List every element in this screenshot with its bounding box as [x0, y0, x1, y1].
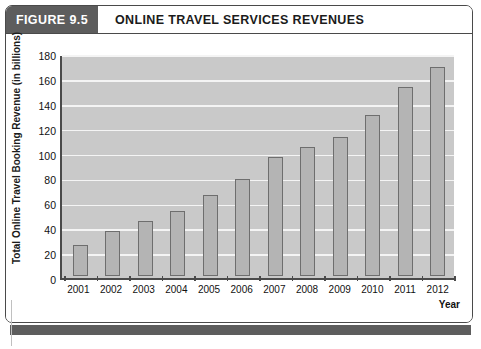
bar-slot	[292, 56, 325, 276]
bar-2011	[398, 87, 413, 276]
bar-2009	[333, 137, 348, 276]
bar-slot	[64, 56, 97, 276]
bar-slot	[227, 56, 260, 276]
y-tick-label: 20	[8, 250, 56, 261]
y-tick-label: 160	[8, 75, 56, 86]
x-tick-label: 2002	[95, 284, 128, 295]
bar-slot	[162, 56, 195, 276]
figure-frame: FIGURE 9.5 ONLINE TRAVEL SERVICES REVENU…	[5, 5, 473, 323]
figure-number-tag: FIGURE 9.5	[6, 6, 98, 33]
x-tick-mark	[64, 276, 66, 281]
bar-2005	[203, 195, 218, 276]
bar-slot	[194, 56, 227, 276]
x-tick-mark	[259, 276, 261, 281]
bar-2001	[73, 245, 88, 276]
x-tick-label: 2001	[62, 284, 95, 295]
x-tick-label: 2012	[421, 284, 454, 295]
x-tick-mark	[389, 276, 391, 281]
bar-2002	[105, 231, 120, 276]
bar-slot	[97, 56, 130, 276]
x-tick-mark	[292, 276, 294, 281]
bar-2008	[300, 147, 315, 276]
x-tick-mark	[129, 276, 131, 281]
plot-canvas	[60, 56, 454, 280]
x-axis-title: Year	[439, 299, 460, 310]
y-tick-label: 140	[8, 100, 56, 111]
y-tick-label: 120	[8, 125, 56, 136]
x-tick-mark	[324, 276, 326, 281]
x-tick-label: 2011	[389, 284, 422, 295]
footer-band	[10, 325, 471, 335]
bar-slot	[357, 56, 390, 276]
x-tick-mark	[97, 276, 99, 281]
bar-slot	[389, 56, 422, 276]
bar-2003	[138, 221, 153, 276]
y-tick-label: 80	[8, 175, 56, 186]
bar-2007	[268, 157, 283, 276]
x-tick-mark	[454, 276, 456, 281]
page-edge-mark	[11, 300, 12, 346]
bar-series	[64, 56, 454, 276]
x-tick-mark	[357, 276, 359, 281]
x-tick-label: 2007	[258, 284, 291, 295]
x-tick-label: 2003	[127, 284, 160, 295]
bar-2012	[430, 67, 445, 276]
y-tick-label: 180	[8, 51, 56, 62]
x-axis-tick-labels: 2001200220032004200520062007200820092010…	[62, 284, 454, 295]
x-tick-mark	[227, 276, 229, 281]
x-tick-label: 2008	[291, 284, 324, 295]
x-tick-label: 2004	[160, 284, 193, 295]
x-tick-label: 2005	[193, 284, 226, 295]
x-tick-mark	[194, 276, 196, 281]
y-tick-label: 60	[8, 200, 56, 211]
y-tick-label: 40	[8, 225, 56, 236]
x-tick-label: 2006	[225, 284, 258, 295]
y-axis-tick-labels: 020406080100120140160180	[6, 56, 56, 280]
x-tick-mark	[422, 276, 424, 281]
bar-slot	[422, 56, 455, 276]
bar-2010	[365, 115, 380, 276]
bar-slot	[129, 56, 162, 276]
bar-slot	[324, 56, 357, 276]
plot-area	[60, 56, 454, 280]
figure-title: ONLINE TRAVEL SERVICES REVENUES	[98, 6, 472, 33]
bar-slot	[259, 56, 292, 276]
bar-2006	[235, 179, 250, 276]
chart-area: Total Online Travel Booking Revenue (in …	[6, 34, 472, 322]
figure-header: FIGURE 9.5 ONLINE TRAVEL SERVICES REVENU…	[6, 6, 472, 34]
bar-2004	[170, 211, 185, 276]
x-tick-label: 2009	[323, 284, 356, 295]
y-tick-label: 0	[8, 275, 56, 286]
y-tick-label: 100	[8, 150, 56, 161]
x-tick-label: 2010	[356, 284, 389, 295]
x-tick-mark	[162, 276, 164, 281]
